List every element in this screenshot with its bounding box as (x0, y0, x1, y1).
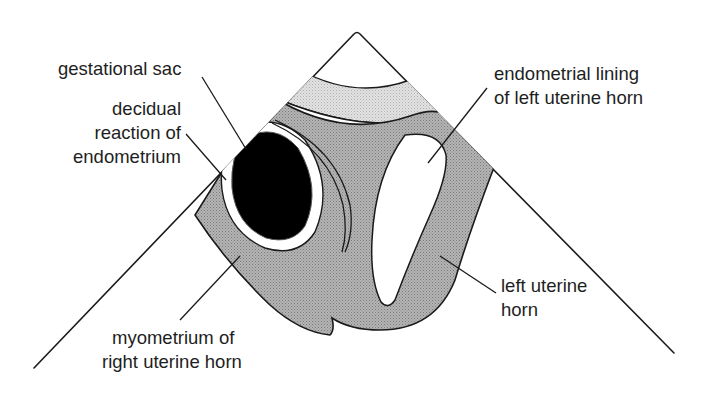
label-myometrium-line1: myometrium of (112, 327, 235, 348)
label-myometrium-line2: right uterine horn (102, 351, 242, 372)
label-decidual-line3: endometrium (73, 146, 181, 167)
label-decidual-line1: decidual (112, 98, 181, 119)
label-endometrial-line2: of left uterine horn (494, 87, 643, 108)
leader-decidual (186, 134, 226, 180)
label-left-horn-line1: left uterine (501, 275, 587, 296)
uterus-ultrasound-diagram: gestational sac decidual reaction of end… (0, 0, 705, 407)
label-decidual-line2: reaction of (95, 122, 182, 143)
label-gestational-sac: gestational sac (58, 58, 181, 79)
label-left-horn-line2: horn (501, 299, 538, 320)
label-endometrial-line1: endometrial lining (494, 63, 639, 84)
leader-gestational-sac (202, 77, 246, 149)
leader-myometrium (180, 256, 240, 320)
